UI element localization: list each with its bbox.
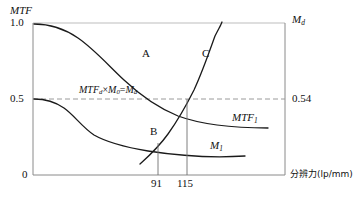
annotation-m1-base: M [210,139,219,151]
y-axis-title: MTF [10,5,32,16]
annotation-m1-sub: 1 [219,144,223,153]
annotation-formula: MTFd×M0=Md [79,85,137,96]
annotation-mtf1: MTF1 [232,112,258,124]
annotation-mtf1-sub: 1 [254,116,258,125]
annotation-m1: M1 [210,140,223,152]
x-axis-title: 分辨力(lp/mm) [290,170,353,179]
y-tick-label-0-5: 0.5 [10,93,24,104]
y-axis-right-title: Md [292,14,305,26]
y-tick-label-right-0-54: 0.54 [292,93,311,104]
annotation-curve-c: C [202,48,209,59]
y-tick-label-0: 0 [22,169,28,180]
x-tick-label-91: 91 [151,178,162,189]
annotation-mtf1-base: MTF [232,111,254,123]
mtf-resolution-chart: MTF Md 1.0 0.5 0 0.54 91 115 分辨力(lp/mm) … [0,0,359,197]
formula-part-3: M [125,84,133,95]
formula-sub-3: d [134,88,137,95]
y-axis-right-title-sub: d [301,18,305,27]
annotation-curve-b: B [150,126,157,137]
y-axis-right-title-base: M [292,13,301,25]
annotation-curve-a: A [142,48,150,59]
x-tick-label-115: 115 [177,178,193,189]
formula-part-1: MTF [79,84,99,95]
y-tick-label-1-0: 1.0 [10,17,24,28]
